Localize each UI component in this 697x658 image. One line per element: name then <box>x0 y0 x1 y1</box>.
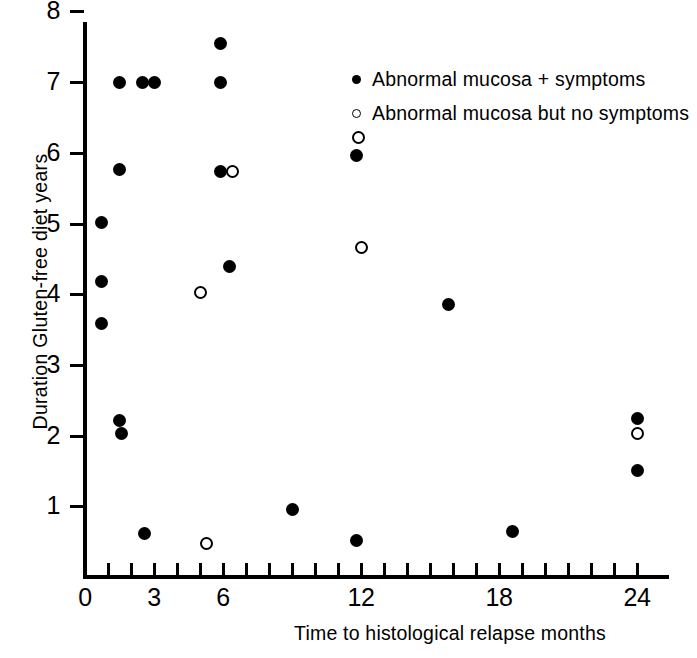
data-point-open-circle <box>355 241 368 254</box>
data-point-filled-circle <box>113 414 126 427</box>
x-axis-tick <box>199 563 202 576</box>
filled-circle-icon <box>352 75 372 84</box>
x-axis-tick-label: 24 <box>607 583 667 611</box>
y-axis-tick <box>70 81 84 84</box>
y-axis-tick <box>70 152 84 155</box>
y-axis-title: Duration Gluten-free diet years <box>29 12 52 572</box>
x-axis-tick <box>360 563 363 576</box>
x-axis-tick <box>636 563 639 576</box>
data-point-open-circle <box>200 537 213 550</box>
data-point-filled-circle <box>95 317 108 330</box>
x-axis-tick-label: 0 <box>55 583 115 611</box>
data-point-filled-circle <box>95 275 108 288</box>
data-point-open-circle <box>226 165 239 178</box>
x-axis-tick <box>452 563 455 576</box>
x-axis-tick <box>130 563 133 576</box>
x-axis-tick-label: 12 <box>331 583 391 611</box>
x-axis-tick-label: 3 <box>124 583 184 611</box>
data-point-filled-circle <box>214 37 227 50</box>
data-point-open-circle <box>631 427 644 440</box>
x-axis-tick <box>314 563 317 576</box>
x-axis-tick-label: 18 <box>469 583 529 611</box>
x-axis-tick <box>291 563 294 576</box>
x-axis-tick <box>544 563 547 576</box>
data-point-filled-circle <box>113 76 126 89</box>
x-axis-tick <box>383 563 386 576</box>
x-axis-tick <box>153 563 156 576</box>
data-point-filled-circle <box>138 527 151 540</box>
data-point-filled-circle <box>286 503 299 516</box>
x-axis-tick <box>498 563 501 576</box>
y-axis-tick <box>70 10 84 13</box>
x-axis-tick <box>590 563 593 576</box>
legend-entry-abnormal-mucosa-no-symptoms: Abnormal mucosa but no symptoms <box>352 96 689 130</box>
legend-label: Abnormal mucosa + symptoms <box>372 68 645 91</box>
open-circle-icon <box>352 109 372 118</box>
x-axis-tick <box>475 563 478 576</box>
legend-entry-abnormal-mucosa-with-symptoms: Abnormal mucosa + symptoms <box>352 62 689 96</box>
x-axis-tick <box>337 563 340 576</box>
y-axis-tick <box>70 435 84 438</box>
data-point-filled-circle <box>442 298 455 311</box>
y-axis-tick <box>70 505 84 508</box>
x-axis-tick <box>406 563 409 576</box>
data-point-filled-circle <box>631 464 644 477</box>
data-point-filled-circle <box>214 76 227 89</box>
scatter-plot-figure: 12345678 036121824 Duration Gluten-free … <box>0 0 697 658</box>
x-axis-tick <box>521 563 524 576</box>
data-point-filled-circle <box>115 427 128 440</box>
data-point-filled-circle <box>223 260 236 273</box>
y-axis-tick <box>70 223 84 226</box>
legend-label: Abnormal mucosa but no symptoms <box>372 102 689 125</box>
x-axis-tick <box>107 563 110 576</box>
x-axis-tick <box>268 563 271 576</box>
x-axis-tick-label: 6 <box>193 583 253 611</box>
x-axis-tick <box>613 563 616 576</box>
data-point-open-circle <box>352 131 365 144</box>
y-axis-line <box>83 22 87 579</box>
x-axis-tick <box>245 563 248 576</box>
data-point-filled-circle <box>631 412 644 425</box>
x-axis-line <box>83 575 669 579</box>
data-point-filled-circle <box>113 163 126 176</box>
x-axis-tick <box>222 563 225 576</box>
legend: Abnormal mucosa + symptoms Abnormal muco… <box>352 62 689 130</box>
data-point-open-circle <box>194 286 207 299</box>
data-point-filled-circle <box>95 216 108 229</box>
x-axis-title: Time to histological relapse months <box>240 622 660 645</box>
data-point-filled-circle <box>350 149 363 162</box>
data-point-filled-circle <box>148 76 161 89</box>
data-point-filled-circle <box>506 525 519 538</box>
x-axis-tick <box>567 563 570 576</box>
y-axis-tick <box>70 364 84 367</box>
x-axis-tick <box>429 563 432 576</box>
y-axis-tick <box>70 293 84 296</box>
x-axis-tick <box>176 563 179 576</box>
data-point-filled-circle <box>350 534 363 547</box>
